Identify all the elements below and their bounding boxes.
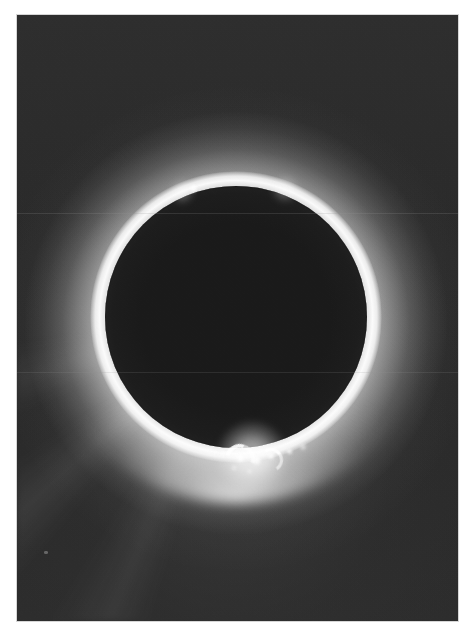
page-root	[0, 0, 473, 639]
top-limb-glow-right	[270, 174, 300, 204]
top-limb-glow-left	[169, 179, 195, 205]
eclipse-photograph-plate	[17, 15, 458, 621]
plate-scanline-lower	[17, 372, 458, 373]
plate-blemish-lower-left	[44, 551, 48, 554]
bottom-knot-i	[207, 447, 212, 452]
plate-caption	[0, 0, 1, 1]
bottom-knot-h	[299, 443, 307, 451]
plate-scanline-upper	[17, 213, 458, 214]
lunar-occulting-disk	[105, 186, 367, 448]
